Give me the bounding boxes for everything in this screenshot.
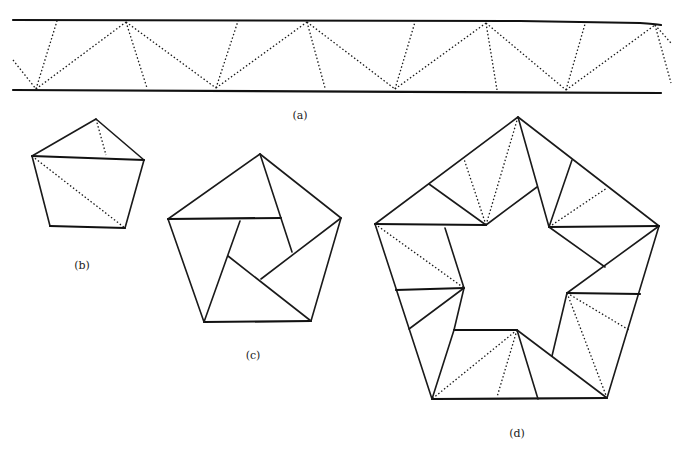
panel-b-pentagon [32,119,144,228]
label-a: (a) [292,109,307,122]
label-c: (c) [246,349,261,362]
strip-bottom-edge [13,90,661,93]
panel-d-star-ring [375,117,659,399]
strip-top-edge [13,20,661,25]
label-d: (d) [509,427,525,440]
panel-a-strip [13,20,671,93]
origami-pentagon-diagram [0,0,686,458]
strip-fold-lines [13,21,671,90]
label-b: (b) [74,259,90,272]
panel-c-pinwheel-pentagon [168,154,341,322]
